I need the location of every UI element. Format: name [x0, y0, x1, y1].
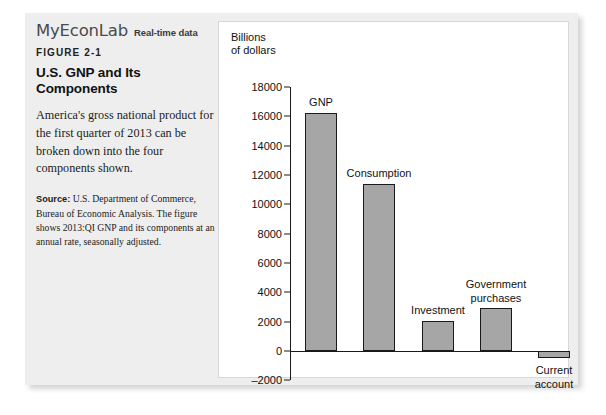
y-axis-tick-mark	[284, 233, 290, 234]
figure-source: Source: U.S. Department of Commerce, Bur…	[36, 192, 219, 249]
y-axis-tick-label: 14000	[219, 140, 282, 152]
y-axis-tick-mark	[284, 321, 290, 322]
figure-number: FIGURE 2-1	[36, 47, 219, 58]
bar-chart-plot-area: 1800016000140001200010000800060004000200…	[219, 22, 568, 377]
y-axis-tick-label: 18000	[219, 81, 282, 93]
bar-label-current-account: Current account	[523, 364, 585, 390]
bar-current-account	[538, 351, 570, 358]
y-axis-tick-label: 2000	[219, 316, 282, 328]
myeconlab-logo: MyEconLab	[36, 21, 128, 40]
chart-panel: Billions of dollars 18000160001400012000…	[218, 21, 569, 378]
y-axis-tick-label: 16000	[219, 110, 282, 122]
y-axis-tick-mark	[284, 145, 290, 146]
bar-label-gnp: GNP	[291, 96, 351, 109]
x-axis-zero-line	[290, 351, 557, 352]
bar-label-investment: Investment	[400, 304, 476, 317]
y-axis-tick-label: –2000	[219, 374, 282, 386]
bar-government-purchases	[480, 308, 512, 351]
y-axis-tick-label: 12000	[219, 169, 282, 181]
bar-investment	[422, 321, 454, 351]
y-axis-tick-label: 4000	[219, 286, 282, 298]
y-axis-tick-label: 8000	[219, 228, 282, 240]
y-axis-tick-label: 10000	[219, 198, 282, 210]
source-label: Source:	[36, 194, 70, 204]
y-axis-tick-mark	[284, 175, 290, 176]
y-axis-tick-label: 6000	[219, 257, 282, 269]
y-axis-line	[290, 87, 291, 380]
bar-consumption	[363, 184, 395, 351]
y-axis-tick-mark	[284, 204, 290, 205]
y-axis-tick-mark	[284, 263, 290, 264]
realtime-data-tagline: Real-time data	[134, 27, 198, 38]
y-axis-tick-mark	[284, 87, 290, 88]
y-axis-tick-mark	[284, 380, 290, 381]
brand-row: MyEconLab Real-time data	[36, 21, 219, 40]
bar-label-consumption: Consumption	[336, 167, 422, 180]
figure-card: MyEconLab Real-time data FIGURE 2-1 U.S.…	[25, 13, 578, 385]
y-axis-tick-mark	[284, 292, 290, 293]
bar-gnp	[305, 113, 337, 351]
figure-title: U.S. GNP and Its Components	[36, 65, 219, 98]
caption-column: MyEconLab Real-time data FIGURE 2-1 U.S.…	[36, 21, 219, 377]
bar-label-government-purchases: Government purchases	[453, 278, 539, 304]
y-axis-tick-mark	[284, 116, 290, 117]
y-axis-tick-label: 0	[219, 345, 282, 357]
y-axis-tick-mark	[284, 351, 290, 352]
figure-description: America's gross national product for the…	[36, 107, 219, 178]
